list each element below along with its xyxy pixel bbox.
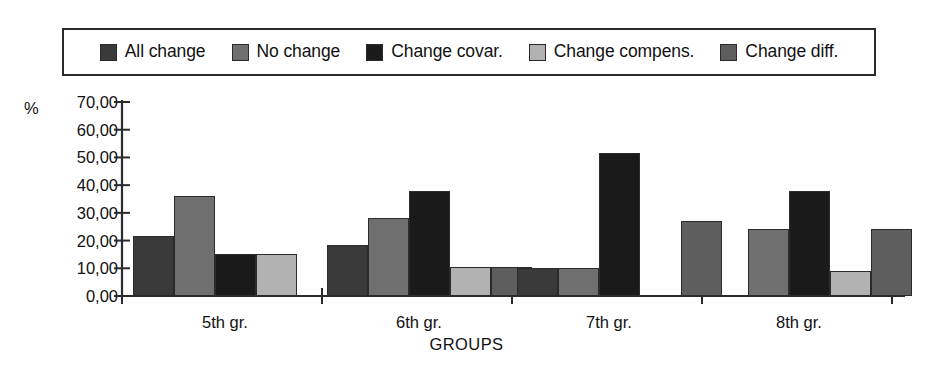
bar xyxy=(368,218,409,296)
bar xyxy=(830,271,871,296)
bar xyxy=(681,221,722,296)
bar xyxy=(174,196,215,296)
bar xyxy=(789,191,830,296)
x-axis-group-label: 7th gr. xyxy=(586,314,632,331)
bar xyxy=(871,229,912,296)
plot-area: 5th gr.6th gr.7th gr.8th gr. xyxy=(0,0,933,386)
x-axis-group-label: 5th gr. xyxy=(202,314,248,331)
bar xyxy=(748,229,789,296)
bar xyxy=(133,236,174,296)
bar xyxy=(517,268,558,296)
bar xyxy=(409,191,450,296)
bar xyxy=(327,245,368,296)
bar-chart: All changeNo changeChange covar.Change c… xyxy=(0,0,933,386)
bar xyxy=(215,254,256,296)
bar xyxy=(558,268,599,296)
x-axis-group-label: 8th gr. xyxy=(776,314,822,331)
bar xyxy=(450,267,491,296)
bar xyxy=(599,153,640,296)
x-axis-group-label: 6th gr. xyxy=(396,314,442,331)
x-axis-title: GROUPS xyxy=(0,335,933,354)
bar xyxy=(256,254,297,296)
